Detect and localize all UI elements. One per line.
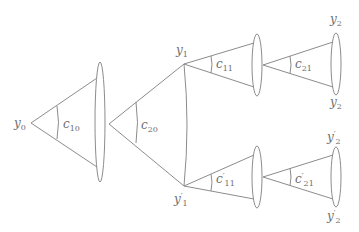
label-c20: c20	[141, 118, 158, 134]
cone-base-ellipse-c11-prime	[252, 146, 262, 208]
angle-arc-c11-prime	[211, 174, 212, 191]
label-y2-prime-bottom: y′2	[326, 208, 341, 225]
angle-arc-c20	[136, 102, 138, 143]
label-y0: y0	[13, 116, 26, 132]
cone-tree-diagram: y0 y1 y′1 y2 y2 y′2 y′2 c10 c20 c11 c21 …	[0, 0, 359, 232]
label-y1: y1	[175, 43, 188, 59]
cone-base-ellipse-c21	[331, 33, 341, 95]
angle-arc-c10	[57, 106, 59, 139]
angle-arc-c21	[290, 56, 291, 74]
label-y2-prime-top: y′2	[326, 129, 341, 146]
label-c11-prime: c′11	[216, 171, 235, 188]
label-y2-bottom: y2	[329, 95, 342, 111]
cone-base-ellipse-c21-prime	[331, 147, 341, 207]
label-c11: c11	[216, 57, 233, 73]
cone-base-ellipse-c10	[95, 62, 105, 182]
label-c21: c21	[295, 57, 312, 73]
label-y2-top: y2	[329, 12, 342, 28]
label-c10: c10	[63, 117, 80, 133]
label-y1-prime: y′1	[173, 191, 188, 208]
cone-base-ellipse-c11	[252, 34, 262, 96]
label-c21-prime: c′21	[295, 171, 314, 188]
cone-base-arc-c20	[184, 64, 187, 186]
angle-arc-c21-prime	[290, 168, 291, 186]
angle-arc-c11	[211, 56, 212, 73]
